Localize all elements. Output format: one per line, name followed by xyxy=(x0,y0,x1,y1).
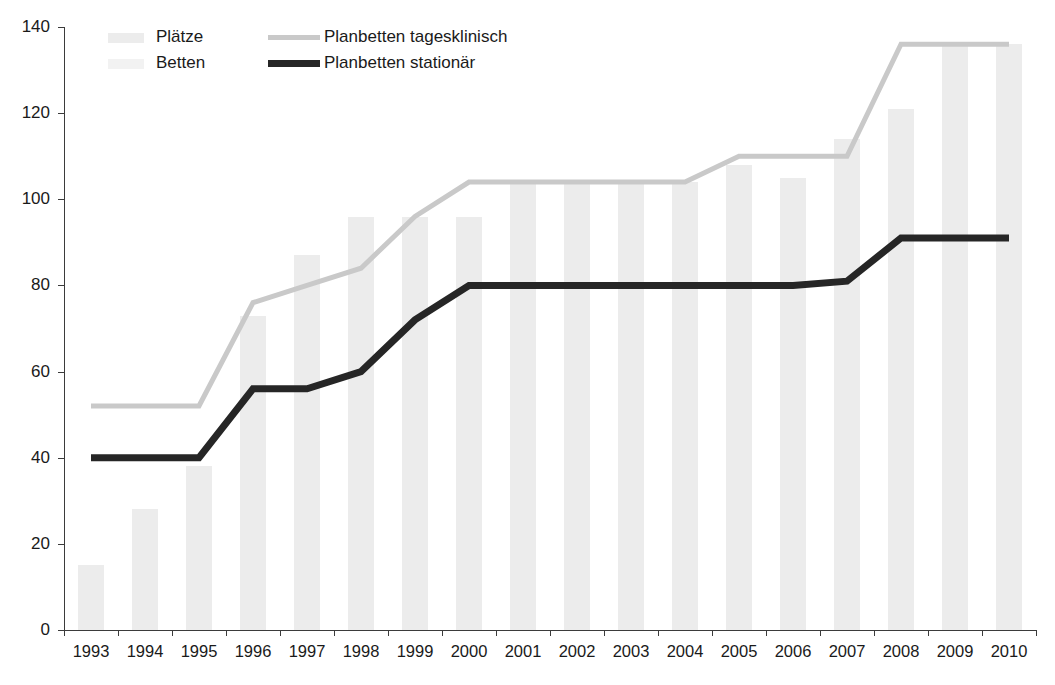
x-axis-label: 2007 xyxy=(820,642,874,660)
bars-layer xyxy=(64,27,1036,630)
bar xyxy=(132,509,158,630)
x-axis-tick xyxy=(820,630,821,636)
x-axis-tick xyxy=(874,630,875,636)
x-axis-tick xyxy=(442,630,443,636)
x-axis-label: 2002 xyxy=(550,642,604,660)
x-axis-label: 1996 xyxy=(226,642,280,660)
legend-swatch-line-dark-icon xyxy=(268,60,320,67)
x-axis-label: 1999 xyxy=(388,642,442,660)
x-axis-label: 2005 xyxy=(712,642,766,660)
x-axis-label: 2003 xyxy=(604,642,658,660)
y-axis-label: 20 xyxy=(0,535,50,552)
x-axis-tick xyxy=(550,630,551,636)
x-axis-tick xyxy=(334,630,335,636)
chart-container: 140120100806040200 199319941995199619971… xyxy=(0,0,1055,685)
x-axis-tick xyxy=(712,630,713,636)
legend-label: Plätze xyxy=(156,26,203,48)
legend-label: Planbetten stationär xyxy=(324,52,475,74)
bar xyxy=(294,255,320,630)
y-axis-label: 120 xyxy=(0,104,50,121)
bar xyxy=(564,182,590,630)
bar xyxy=(780,178,806,630)
x-axis-label: 1998 xyxy=(334,642,388,660)
bar xyxy=(348,217,374,630)
legend-label: Betten xyxy=(156,52,205,74)
x-axis-tick xyxy=(388,630,389,636)
legend-swatch-line-light-icon xyxy=(268,35,320,40)
x-axis-label: 2008 xyxy=(874,642,928,660)
x-axis-label: 2009 xyxy=(928,642,982,660)
x-axis-label: 1997 xyxy=(280,642,334,660)
x-axis-label: 2010 xyxy=(982,642,1036,660)
x-axis-tick xyxy=(928,630,929,636)
bar xyxy=(942,44,968,630)
bar xyxy=(456,217,482,630)
y-axis-label: 80 xyxy=(0,276,50,293)
bar xyxy=(78,565,104,630)
x-axis-label: 2000 xyxy=(442,642,496,660)
x-axis-tick xyxy=(226,630,227,636)
bar xyxy=(510,182,536,630)
y-axis-label: 140 xyxy=(0,18,50,35)
x-axis-tick xyxy=(604,630,605,636)
x-axis-tick xyxy=(280,630,281,636)
x-axis-tick xyxy=(64,630,65,636)
bar xyxy=(726,165,752,630)
x-axis-label: 2001 xyxy=(496,642,550,660)
x-axis-label: 2004 xyxy=(658,642,712,660)
bar xyxy=(402,217,428,630)
bar xyxy=(618,182,644,630)
y-axis-label: 100 xyxy=(0,190,50,207)
x-axis-label: 1995 xyxy=(172,642,226,660)
legend-swatch-bar-icon xyxy=(108,33,144,43)
x-axis-label: 1993 xyxy=(64,642,118,660)
legend-label: Planbetten tagesklinisch xyxy=(324,26,507,48)
x-axis-label: 2006 xyxy=(766,642,820,660)
legend-swatch-bar-icon xyxy=(108,59,144,69)
chart-legend: Plätze Betten Planbetten tagesklinisch P… xyxy=(108,26,528,76)
y-axis-label: 60 xyxy=(0,363,50,380)
x-axis-tick xyxy=(118,630,119,636)
bar xyxy=(888,109,914,630)
x-axis-tick xyxy=(982,630,983,636)
bar xyxy=(240,316,266,630)
bar xyxy=(186,466,212,630)
x-axis-tick xyxy=(1036,630,1037,636)
y-axis-label: 40 xyxy=(0,449,50,466)
bar xyxy=(834,139,860,630)
x-axis-tick xyxy=(658,630,659,636)
y-axis-label: 0 xyxy=(0,621,50,638)
x-axis-tick xyxy=(496,630,497,636)
x-axis-label: 1994 xyxy=(118,642,172,660)
x-axis-tick xyxy=(172,630,173,636)
bar xyxy=(672,182,698,630)
x-axis-tick xyxy=(766,630,767,636)
bar xyxy=(996,44,1022,630)
